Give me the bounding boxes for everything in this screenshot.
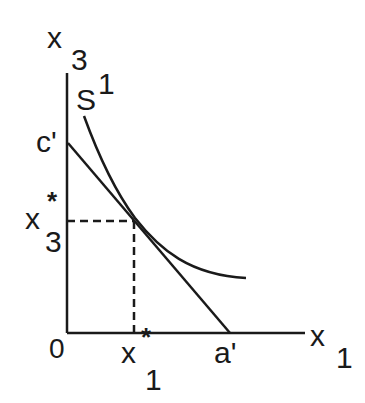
x-intercept-label: a' bbox=[214, 336, 236, 369]
x-axis-subscript: 1 bbox=[336, 341, 353, 374]
tangency-x-label: x bbox=[121, 336, 136, 369]
tangency-y-label: x bbox=[25, 202, 40, 235]
y-axis-subscript: 3 bbox=[71, 43, 88, 76]
budget-line bbox=[68, 143, 230, 333]
curve-superscript: 1 bbox=[98, 67, 115, 100]
diagram-canvas: x 3 S 1 c' x * 3 0 x * 1 a' x 1 bbox=[0, 0, 365, 403]
y-axis-label: x bbox=[47, 21, 62, 54]
tangency-y-star: * bbox=[47, 186, 58, 216]
indifference-curve-s1 bbox=[84, 116, 246, 278]
tangency-x-star: * bbox=[141, 322, 152, 352]
tangency-y-subscript: 3 bbox=[45, 225, 62, 258]
y-intercept-label: c' bbox=[36, 125, 57, 158]
x-axis-label: x bbox=[310, 319, 325, 352]
tangency-x-subscript: 1 bbox=[145, 363, 162, 396]
curve-label: S bbox=[76, 83, 96, 116]
origin-label: 0 bbox=[49, 333, 65, 364]
